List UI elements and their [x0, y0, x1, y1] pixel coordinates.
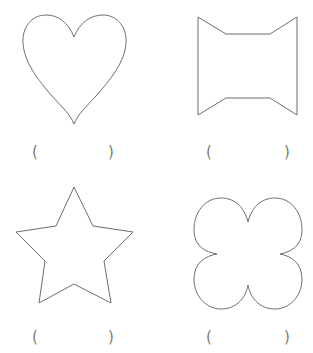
answer-blank-four-leaf-clover[interactable] — [218, 330, 280, 348]
open-paren: ( — [206, 330, 212, 345]
close-paren: ) — [108, 330, 114, 345]
open-paren: ( — [32, 145, 38, 160]
answer-blank-heart[interactable] — [45, 145, 105, 163]
star-shape — [16, 187, 133, 303]
concave-octagon-shape — [198, 17, 297, 115]
close-paren: ) — [108, 145, 114, 160]
open-paren: ( — [206, 145, 212, 160]
open-paren: ( — [32, 330, 38, 345]
answer-blank-concave-octagon[interactable] — [218, 145, 280, 163]
answer-blank-star[interactable] — [45, 330, 105, 348]
shapes-canvas — [0, 0, 313, 353]
close-paren: ) — [284, 145, 290, 160]
close-paren: ) — [284, 330, 290, 345]
heart-shape — [23, 15, 126, 124]
four-leaf-clover-shape — [194, 198, 302, 309]
